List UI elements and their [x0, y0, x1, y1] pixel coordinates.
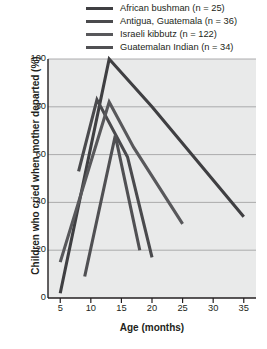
- legend-item: Israeli kibbutz (n = 122): [86, 28, 267, 41]
- plot-area: [48, 59, 256, 298]
- plot-lines: [48, 59, 256, 298]
- legend-swatch-guatemalan-indian: [86, 46, 113, 49]
- x-tick-label: 20: [140, 303, 164, 313]
- x-tick-label: 35: [232, 303, 256, 313]
- x-tick-label: 30: [201, 303, 225, 313]
- x-tick-label: 5: [48, 303, 72, 313]
- legend-item: African bushman (n = 25): [86, 2, 267, 15]
- series-line: [79, 100, 152, 258]
- legend-swatch-antigua-guatemala: [86, 20, 113, 23]
- x-tick-label: 10: [79, 303, 103, 313]
- chart-legend: African bushman (n = 25) Antigua, Guatem…: [86, 2, 267, 54]
- legend-label-antigua-guatemala: Antigua, Guatemala (n = 36): [120, 15, 237, 28]
- legend-item: Antigua, Guatemala (n = 36): [86, 15, 267, 28]
- x-axis-label: Age (months): [48, 322, 256, 333]
- y-axis-label: Children who cried when mother departed …: [30, 46, 41, 286]
- y-tick-label: 0: [20, 293, 46, 302]
- legend-label-israeli-kibbutz: Israeli kibbutz (n = 122): [120, 28, 217, 41]
- legend-item: Guatemalan Indian (n = 34): [86, 41, 267, 54]
- chart-figure: African bushman (n = 25) Antigua, Guatem…: [0, 0, 267, 349]
- legend-label-guatemalan-indian: Guatemalan Indian (n = 34): [120, 41, 233, 54]
- legend-swatch-israeli-kibbutz: [86, 33, 113, 36]
- x-tick-label: 25: [171, 303, 195, 313]
- legend-swatch-african-bushman: [86, 7, 113, 10]
- x-tick-label: 15: [109, 303, 133, 313]
- legend-label-african-bushman: African bushman (n = 25): [120, 2, 225, 15]
- series-line: [60, 102, 182, 262]
